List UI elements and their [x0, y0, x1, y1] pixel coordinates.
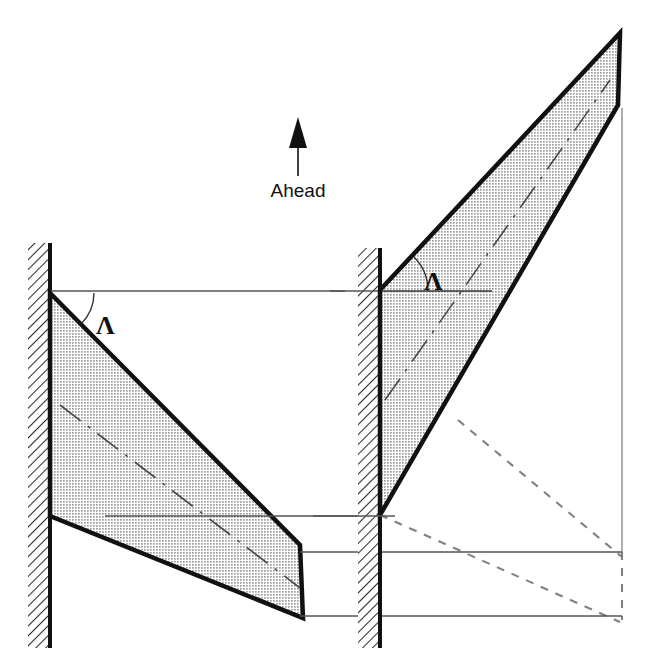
- sweep-angle-lambda-left: Λ: [96, 311, 115, 340]
- ahead-label: Ahead: [271, 180, 326, 201]
- left-wall-hatching: [28, 243, 48, 648]
- right-wall-hatching: [358, 248, 378, 648]
- right-fuselage-wall: [358, 248, 380, 648]
- left-fuselage-wall: [28, 243, 50, 648]
- sweep-angle-lambda-right: Λ: [424, 267, 443, 296]
- diagram-canvas: Λ Ahead: [0, 0, 656, 671]
- sweep-angle-diagram: Λ Ahead: [0, 0, 656, 671]
